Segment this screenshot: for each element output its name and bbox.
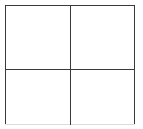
grid-cell-top-right[interactable] xyxy=(71,6,133,69)
grid-cell-bottom-right[interactable] xyxy=(71,70,133,124)
grid-border-right xyxy=(134,5,135,125)
grid-cell-bottom-left[interactable] xyxy=(6,70,70,124)
grid-cell-top-left[interactable] xyxy=(6,6,70,69)
canvas xyxy=(0,0,143,129)
grid-figure xyxy=(5,5,135,125)
